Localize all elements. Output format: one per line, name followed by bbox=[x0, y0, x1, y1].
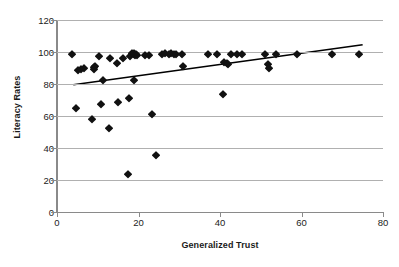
gridline bbox=[57, 20, 383, 21]
x-tick-label: 0 bbox=[42, 217, 72, 228]
gridline bbox=[57, 180, 383, 181]
x-tick-mark bbox=[220, 212, 221, 217]
x-tick-label: 80 bbox=[368, 217, 398, 228]
gridline bbox=[57, 116, 383, 117]
y-axis-title: Literacy Rates bbox=[6, 0, 28, 213]
x-axis-title: Generalized Trust bbox=[57, 240, 383, 250]
x-tick-label: 60 bbox=[287, 217, 317, 228]
x-tick-mark bbox=[302, 212, 303, 217]
scatter-chart: Literacy Rates Generalized Trust 0204060… bbox=[0, 0, 399, 267]
gridline bbox=[57, 84, 383, 85]
x-tick-mark bbox=[139, 212, 140, 217]
x-tick-label: 40 bbox=[205, 217, 235, 228]
y-tick-mark bbox=[51, 180, 57, 181]
gridline bbox=[57, 148, 383, 149]
x-tick-mark bbox=[57, 212, 58, 217]
x-tick-label: 20 bbox=[124, 217, 154, 228]
y-tick-mark bbox=[51, 116, 57, 117]
plot-area bbox=[57, 20, 383, 212]
y-axis-title-text: Literacy Rates bbox=[12, 75, 22, 138]
y-tick-mark bbox=[51, 52, 57, 53]
y-tick-mark bbox=[51, 148, 57, 149]
y-tick-mark bbox=[51, 20, 57, 21]
y-tick-mark bbox=[51, 84, 57, 85]
x-tick-mark bbox=[383, 212, 384, 217]
